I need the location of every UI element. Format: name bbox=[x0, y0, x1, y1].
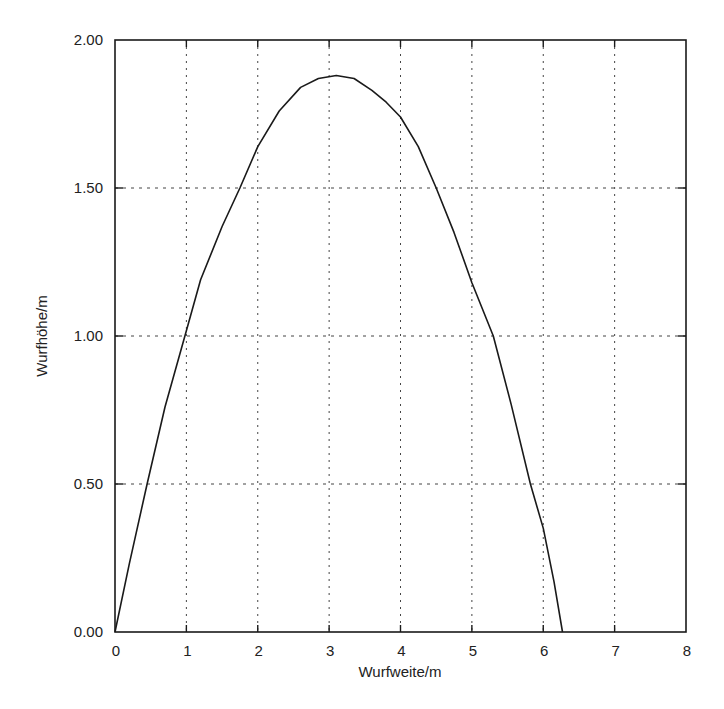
x-axis-tick-labels: 012345678 bbox=[112, 642, 691, 659]
y-tick-label: 1.50 bbox=[74, 179, 103, 196]
x-tick-label: 5 bbox=[469, 642, 477, 659]
y-tick-label: 1.00 bbox=[74, 327, 103, 344]
y-axis-label: Wurfhöhe/m bbox=[33, 295, 50, 376]
x-tick-label: 2 bbox=[255, 642, 263, 659]
x-tick-label: 4 bbox=[397, 642, 405, 659]
x-tick-label: 8 bbox=[683, 642, 691, 659]
trajectory-curve bbox=[115, 76, 563, 633]
trajectory-chart: 012345678 0.000.501.001.502.00 Wurfweite… bbox=[0, 0, 724, 709]
y-tick-label: 0.00 bbox=[74, 623, 103, 640]
x-tick-label: 3 bbox=[326, 642, 334, 659]
x-axis-label: Wurfweite/m bbox=[358, 663, 441, 680]
y-tick-label: 0.50 bbox=[74, 475, 103, 492]
x-tick-label: 6 bbox=[540, 642, 548, 659]
y-axis-tick-labels: 0.000.501.001.502.00 bbox=[74, 31, 103, 640]
grid-lines bbox=[115, 40, 686, 632]
y-tick-label: 2.00 bbox=[74, 31, 103, 48]
x-tick-label: 1 bbox=[183, 642, 191, 659]
x-tick-label: 7 bbox=[611, 642, 619, 659]
x-tick-label: 0 bbox=[112, 642, 120, 659]
